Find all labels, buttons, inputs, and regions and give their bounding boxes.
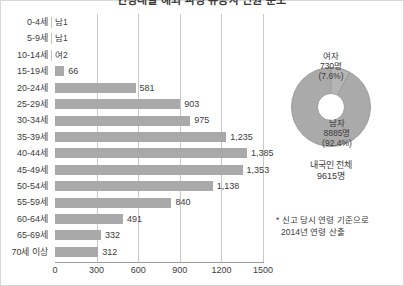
bar: [55, 83, 136, 93]
x-tick-label: 0: [35, 265, 75, 275]
bar-value-label: 840: [175, 194, 190, 210]
bar-value-label: 903: [184, 96, 199, 112]
donut-caption: 내국인 전체 9615명: [281, 160, 381, 182]
category-label: 15-19세: [0, 63, 48, 79]
bar: [55, 165, 243, 175]
bar-value-label: 491: [127, 211, 142, 227]
donut-female-percent: (7.6%): [291, 71, 371, 81]
bar-value-label: 여2: [55, 47, 68, 63]
bar-value-label: 312: [102, 244, 117, 260]
footnote: * 신고 당시 연령 기준으로 2014년 연령 산출: [276, 215, 401, 238]
donut-female-name: 여자: [291, 51, 371, 61]
category-label: 20-24세: [0, 80, 48, 96]
bar: [55, 66, 64, 76]
bar: [55, 247, 98, 257]
bar: [55, 132, 226, 142]
bar-value-label: 581: [140, 80, 155, 96]
category-label: 40-44세: [0, 145, 48, 161]
bar: [55, 148, 247, 158]
page-title: 연령대별 해외 파병 유공자 인원 분포: [0, 0, 403, 7]
bar-row: 0-4세남1: [0, 14, 403, 30]
donut-label-female: 여자 730명 (7.6%): [291, 51, 371, 81]
donut-female-count: 730명: [291, 61, 371, 71]
bar-row: 5-9세남1: [0, 30, 403, 46]
donut-male-percent: (92.4%): [296, 138, 378, 148]
bar-value-label: 남1: [55, 30, 68, 46]
category-label: 30-34세: [0, 112, 48, 128]
bar: [55, 230, 101, 240]
row-separator: [51, 17, 52, 28]
donut-label-male: 남자 8885명 (92.4%): [296, 118, 378, 148]
category-label: 55-59세: [0, 194, 48, 210]
bar-value-label: 66: [68, 63, 78, 79]
bar: [55, 214, 123, 224]
bar-value-label: 1,353: [247, 162, 270, 178]
category-label: 45-49세: [0, 162, 48, 178]
category-label: 35-39세: [0, 129, 48, 145]
bar: [55, 116, 190, 126]
bar-value-label: 1,138: [217, 178, 240, 194]
category-label: 25-29세: [0, 96, 48, 112]
bar-value-label: 975: [194, 112, 209, 128]
x-tick-label: 1200: [201, 265, 241, 275]
footnote-line-1: * 신고 당시 연령 기준으로: [276, 215, 401, 227]
bar-value-label: 1,385: [251, 145, 274, 161]
bar-value-label: 남1: [55, 14, 68, 30]
x-tick-label: 300: [77, 265, 117, 275]
footnote-line-2: 2014년 연령 산출: [276, 227, 401, 239]
row-separator: [51, 50, 52, 61]
donut-caption-title: 내국인 전체: [281, 160, 381, 171]
x-tick-label: 600: [118, 265, 158, 275]
bar: [55, 181, 213, 191]
donut-male-name: 남자: [296, 118, 378, 128]
category-label: 70세 이상: [0, 244, 48, 260]
bar: [55, 99, 180, 109]
category-label: 5-9세: [0, 30, 48, 46]
x-tick-label: 900: [160, 265, 200, 275]
category-label: 50-54세: [0, 178, 48, 194]
category-label: 10-14세: [0, 47, 48, 63]
donut-caption-total: 9615명: [281, 171, 381, 182]
category-label: 65-69세: [0, 227, 48, 243]
bar-value-label: 1,235: [230, 129, 253, 145]
category-label: 0-4세: [0, 14, 48, 30]
bar-row: 55-59세840: [0, 194, 403, 210]
category-label: 60-64세: [0, 211, 48, 227]
x-tick-label: 1500: [243, 265, 283, 275]
donut-male-count: 8885명: [296, 128, 378, 138]
bar-row: 70세 이상312: [0, 244, 403, 260]
row-separator: [51, 33, 52, 44]
x-axis-baseline: [55, 262, 264, 263]
donut-hole: [318, 94, 345, 121]
bar-value-label: 332: [105, 227, 120, 243]
bar: [55, 198, 171, 208]
